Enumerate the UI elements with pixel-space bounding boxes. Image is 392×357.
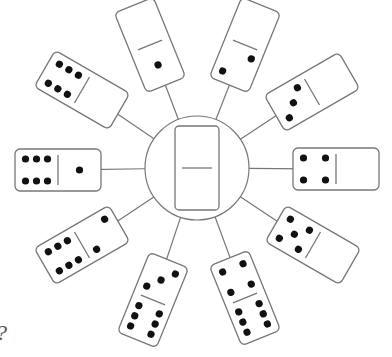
pip: [33, 177, 40, 184]
domino-top-left: [114, 0, 185, 93]
pip: [300, 176, 307, 183]
domino-bottom-right: [209, 250, 280, 345]
domino-upper-right: [264, 52, 359, 131]
question-mark: ?: [0, 322, 7, 344]
domino-top-right: [209, 0, 280, 93]
domino-right: [293, 148, 379, 190]
pip: [300, 154, 307, 161]
pip: [322, 154, 329, 161]
pip: [44, 177, 51, 184]
domino-bottom-left: [117, 252, 188, 347]
pip: [33, 155, 40, 162]
pip: [22, 177, 29, 184]
domino-left: [15, 149, 101, 191]
pip: [322, 176, 329, 183]
domino-lower-right: [265, 205, 360, 284]
pip: [76, 166, 83, 173]
pip: [22, 155, 29, 162]
domino-upper-left: [34, 50, 129, 129]
pip: [44, 155, 51, 162]
domino-puzzle-diagram: [0, 0, 392, 357]
domino-lower-left: [34, 205, 129, 284]
center-circle-group: [145, 116, 249, 220]
